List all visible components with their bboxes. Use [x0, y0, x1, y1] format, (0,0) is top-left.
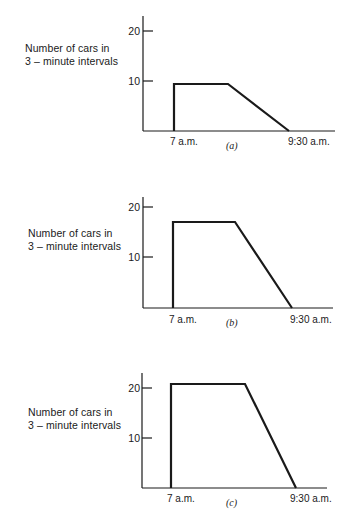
panel-a-x-start-label: 7 a.m. [170, 136, 198, 148]
panel-b-tick-20: 20 [120, 201, 140, 213]
panel-a-plot [143, 16, 335, 131]
y-axis-label-line1: Number of cars in [28, 227, 121, 240]
panel-a-tick-20: 20 [120, 25, 140, 37]
panel-c-plot [142, 373, 327, 488]
y-axis-label-line2: 3 – minute intervals [28, 240, 121, 253]
panel-a-tick-10: 10 [120, 75, 140, 87]
y-axis-label-line1: Number of cars in [28, 406, 121, 419]
panel-a-tag: (a) [226, 140, 238, 152]
panel-b-x-start-label: 7 a.m. [169, 314, 197, 326]
panel-c-tick-10: 10 [120, 432, 140, 444]
y-axis-label-line1: Number of cars in [25, 42, 118, 55]
panel-c-tick-20: 20 [120, 382, 140, 394]
figure-canvas [0, 0, 352, 521]
arrival-rate-trapezoid [174, 84, 289, 131]
panel-b-plot [143, 197, 333, 308]
panel-c-x-start-label: 7 a.m. [167, 493, 195, 505]
panel-a-x-end-label: 9:30 a.m. [288, 136, 330, 148]
panel-b-y-axis-label: Number of cars in 3 – minute intervals [28, 227, 121, 253]
panel-a-y-axis-label: Number of cars in 3 – minute intervals [25, 42, 118, 68]
panel-c-y-axis-label: Number of cars in 3 – minute intervals [28, 406, 121, 432]
panel-c-tag: (c) [226, 497, 237, 509]
y-axis-label-line2: 3 – minute intervals [25, 55, 118, 68]
y-axis-label-line2: 3 – minute intervals [28, 419, 121, 432]
arrival-rate-trapezoid [173, 222, 292, 308]
panel-b-x-end-label: 9:30 a.m. [290, 314, 332, 326]
panel-c-x-end-label: 9:30 a.m. [290, 493, 332, 505]
panel-b-tick-10: 10 [120, 251, 140, 263]
panel-b-tag: (b) [226, 317, 238, 329]
arrival-rate-trapezoid [171, 384, 296, 488]
